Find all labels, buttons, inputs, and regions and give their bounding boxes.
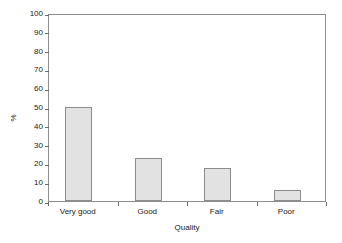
y-tick-label: 90	[34, 28, 43, 38]
y-tick-label: 30	[34, 141, 43, 151]
y-tick-label: 100	[30, 9, 43, 19]
bar	[274, 190, 301, 201]
y-tick-mark	[45, 15, 49, 16]
y-axis-title: %	[0, 111, 28, 125]
y-tick-label: 60	[34, 84, 43, 94]
bar	[65, 107, 92, 201]
y-tick-label: 80	[34, 47, 43, 57]
bar	[135, 158, 162, 201]
y-tick-mark	[45, 90, 49, 91]
y-tick-mark	[45, 71, 49, 72]
x-tick-label: Fair	[182, 206, 252, 217]
y-tick-label: 70	[34, 65, 43, 75]
bar	[204, 168, 231, 201]
plot-frame: 0102030405060708090100	[48, 14, 326, 202]
y-tick-mark	[45, 184, 49, 185]
plot-area: 0102030405060708090100	[49, 15, 325, 201]
x-tick-label: Poor	[252, 206, 322, 217]
y-tick-label: 40	[34, 122, 43, 132]
y-tick-mark	[45, 165, 49, 166]
y-tick-label: 10	[34, 178, 43, 188]
y-tick-mark	[45, 52, 49, 53]
y-tick-label: 50	[34, 103, 43, 113]
x-axis-title: Quality	[48, 222, 326, 233]
bar-chart-figure: % 0102030405060708090100 Quality Very go…	[0, 0, 342, 243]
y-tick-mark	[45, 146, 49, 147]
x-tick-label: Very good	[43, 206, 113, 217]
x-tick-mark	[326, 202, 327, 206]
y-tick-mark	[45, 109, 49, 110]
x-tick-label: Good	[113, 206, 183, 217]
y-tick-label: 20	[34, 159, 43, 169]
y-tick-mark	[45, 33, 49, 34]
y-tick-mark	[45, 127, 49, 128]
